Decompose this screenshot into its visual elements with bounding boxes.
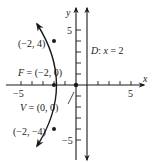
point-upper-marker	[52, 39, 56, 43]
y-tick-label-5: 5	[67, 25, 72, 36]
point-upper-label: (−2, 4)	[18, 38, 45, 50]
focus-marker	[52, 83, 56, 87]
parabola-graph: x −5 5 y 5 −5	[0, 0, 153, 162]
vertex-marker	[74, 83, 78, 87]
vertex-label: V = (0, 0)	[20, 102, 58, 114]
y-tick-label-neg5: −5	[62, 135, 73, 146]
y-axis-label: y	[65, 7, 71, 18]
directrix-line: D: x = 2	[87, 8, 124, 160]
vertex-pointer	[68, 92, 74, 104]
x-axis-label: x	[142, 73, 148, 84]
point-lower-label: (−2, −4)	[13, 126, 46, 138]
x-tick-label-neg5: −5	[13, 88, 24, 99]
point-lower-marker	[52, 127, 56, 131]
directrix-label: D: x = 2	[90, 45, 124, 56]
x-tick-label-5: 5	[128, 88, 133, 99]
focus-label: F = (−2, 0)	[17, 67, 62, 79]
